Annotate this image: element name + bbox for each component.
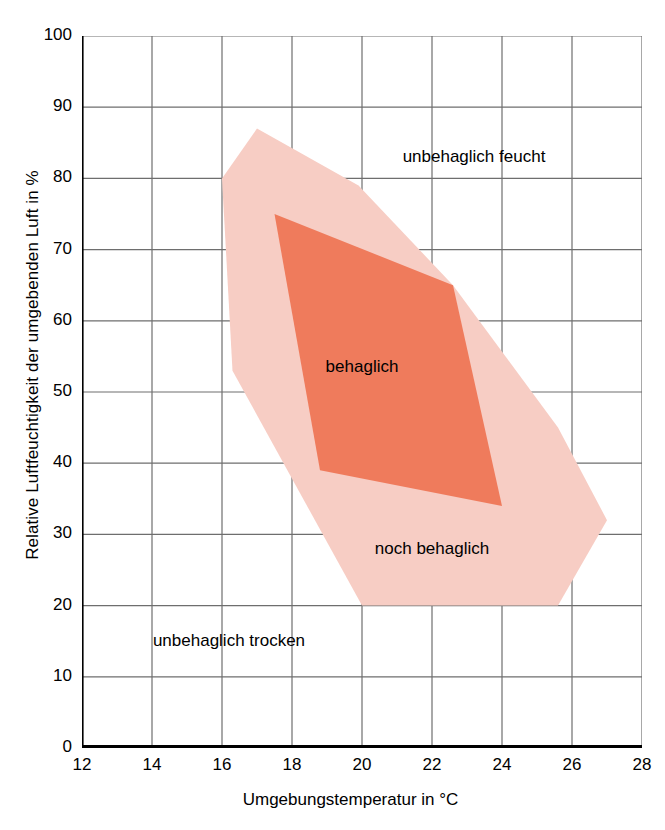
x-tick-18: 18 bbox=[262, 755, 322, 775]
x-axis-title: Umgebungstemperatur in °C bbox=[0, 790, 665, 810]
y-tick-100: 100 bbox=[12, 25, 72, 45]
y-tick-90: 90 bbox=[12, 96, 72, 116]
x-tick-12: 12 bbox=[52, 755, 112, 775]
x-tick-26: 26 bbox=[542, 755, 602, 775]
label-behaglich: behaglich bbox=[326, 357, 399, 377]
y-axis-title: Relative Luftfeuchtigkeit der umgebenden… bbox=[23, 55, 49, 675]
y-tick-20: 20 bbox=[12, 595, 72, 615]
y-tick-70: 70 bbox=[12, 239, 72, 259]
x-tick-16: 16 bbox=[192, 755, 252, 775]
chart-figure: Relative Luftfeuchtigkeit der umgebenden… bbox=[0, 0, 665, 830]
x-tick-24: 24 bbox=[472, 755, 532, 775]
label-unbehaglich-trocken: unbehaglich trocken bbox=[153, 631, 305, 651]
y-tick-80: 80 bbox=[12, 167, 72, 187]
y-tick-50: 50 bbox=[12, 381, 72, 401]
x-tick-20: 20 bbox=[332, 755, 392, 775]
y-tick-0: 0 bbox=[12, 737, 72, 757]
plot-area: unbehaglich feuchtbehaglichnoch behaglic… bbox=[82, 36, 642, 748]
y-tick-10: 10 bbox=[12, 666, 72, 686]
y-tick-30: 30 bbox=[12, 523, 72, 543]
label-noch-behaglich: noch behaglich bbox=[375, 539, 489, 559]
y-tick-40: 40 bbox=[12, 452, 72, 472]
y-tick-60: 60 bbox=[12, 310, 72, 330]
x-tick-22: 22 bbox=[402, 755, 462, 775]
x-tick-28: 28 bbox=[612, 755, 665, 775]
x-tick-14: 14 bbox=[122, 755, 182, 775]
x-axis-title-text: Umgebungstemperatur in °C bbox=[243, 790, 459, 809]
label-unbehaglich-feucht: unbehaglich feucht bbox=[403, 147, 546, 167]
